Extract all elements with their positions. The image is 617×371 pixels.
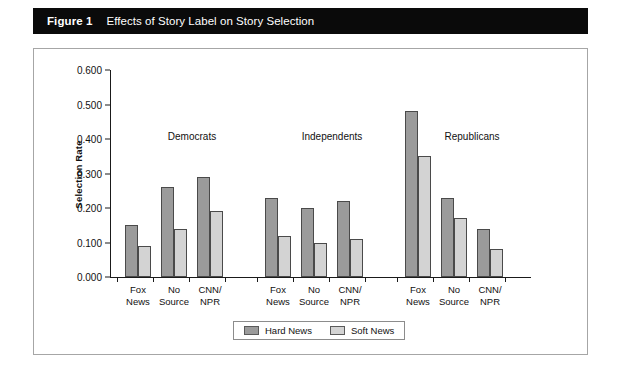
figure-number: Figure 1 [47,15,93,27]
bar-soft-news [314,243,327,278]
x-axis-tick-label-line: Fox [266,284,290,296]
group-label: Independents [302,131,363,142]
x-axis-tick-label-line: NPR [338,296,361,308]
y-axis-tick-label: 0.600 [56,65,102,76]
x-axis-tick-mark [117,277,118,282]
x-axis-tick-label: CNN/NPR [198,284,221,307]
y-axis-tick-label: 0.500 [56,99,102,110]
x-axis-tick-label-line: Source [299,296,329,308]
x-axis-tick-label-line: News [406,296,430,308]
x-axis-tick-label-line: No [159,284,189,296]
x-axis-tick-mark [329,277,330,282]
y-axis-tick-label: 0.100 [56,237,102,248]
bar-hard-news [197,177,210,277]
legend-swatch [330,326,345,335]
x-axis-tick-mark [469,277,470,282]
y-axis-tick-label: 0.000 [56,272,102,283]
figure-caption-bar: Figure 1 Effects of Story Label on Story… [33,8,588,34]
bar-hard-news [337,201,350,277]
group-label: Republicans [444,131,499,142]
x-axis-tick-label-line: Source [439,296,469,308]
x-axis-tick-label: NoSource [159,284,189,307]
bar-soft-news [174,229,187,277]
x-axis-tick-label-line: Fox [126,284,150,296]
x-axis-tick-label-line: No [439,284,469,296]
bar-hard-news [301,208,314,277]
bar-hard-news [477,229,490,277]
figure-frame: Selection Rate 0.0000.1000.2000.3000.400… [33,48,588,355]
x-axis-tick-mark [153,277,154,282]
x-axis-tick-label-line: NPR [198,296,221,308]
legend-swatch [244,326,259,335]
y-axis-tick-label: 0.300 [56,168,102,179]
x-axis-tick-label-line: No [299,284,329,296]
x-axis-tick-mark [365,277,366,282]
chart-legend: Hard NewsSoft News [233,321,405,340]
bar-soft-news [210,211,223,277]
bar-soft-news [418,156,431,277]
plot-area: FoxNewsNoSourceCNN/NPRFoxNewsNoSourceCNN… [110,70,531,278]
bar-soft-news [490,249,503,277]
y-axis-tick-label: 0.400 [56,134,102,145]
x-axis-tick-label: CNN/NPR [478,284,501,307]
x-axis-tick-mark [293,277,294,282]
x-axis-tick-label-line: Source [159,296,189,308]
x-axis-tick-mark [505,277,506,282]
x-axis-tick-label-line: CNN/ [198,284,221,296]
group-label: Democrats [168,131,216,142]
x-axis-tick-label-line: CNN/ [478,284,501,296]
x-axis-tick-label-line: News [126,296,150,308]
x-axis-tick-label: NoSource [299,284,329,307]
legend-item: Soft News [330,325,394,336]
x-axis-tick-label: NoSource [439,284,469,307]
x-axis-tick-label-line: News [266,296,290,308]
legend-label: Hard News [265,325,312,336]
bar-hard-news [441,198,454,277]
legend-item: Hard News [244,325,312,336]
x-axis-tick-label: CNN/NPR [338,284,361,307]
bar-hard-news [125,225,138,277]
x-axis-tick-label: FoxNews [266,284,290,307]
legend-label: Soft News [351,325,394,336]
x-axis-tick-mark [433,277,434,282]
x-axis-tick-mark [189,277,190,282]
bar-chart: Selection Rate 0.0000.1000.2000.3000.400… [34,49,589,356]
y-axis-tick-label: 0.200 [56,203,102,214]
bar-hard-news [265,198,278,277]
bar-hard-news [161,187,174,277]
figure-title: Effects of Story Label on Story Selectio… [107,15,315,27]
x-axis-tick-mark [397,277,398,282]
x-axis-tick-mark [225,277,226,282]
x-axis-tick-label-line: CNN/ [338,284,361,296]
bar-soft-news [278,236,291,277]
bar-soft-news [454,218,467,277]
bar-soft-news [138,246,151,277]
bar-soft-news [350,239,363,277]
x-axis-tick-mark [257,277,258,282]
x-axis-tick-label-line: Fox [406,284,430,296]
bar-hard-news [405,111,418,277]
x-axis-tick-label-line: NPR [478,296,501,308]
x-axis-tick-label: FoxNews [406,284,430,307]
x-axis-tick-label: FoxNews [126,284,150,307]
